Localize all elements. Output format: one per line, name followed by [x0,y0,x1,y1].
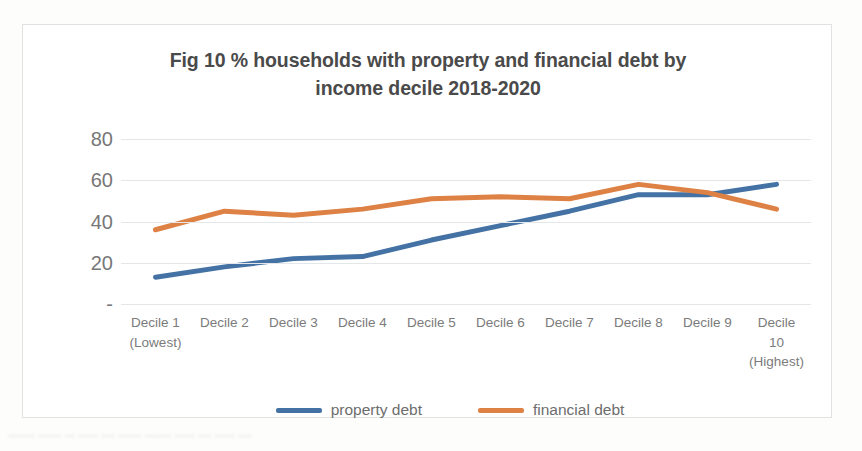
x-axis-tick-label: Decile10(Highest) [742,313,811,372]
x-axis-tick-line: Decile [758,315,796,330]
x-axis-tick-label: Decile 8 [604,313,673,333]
x-axis-tick-line: Decile 2 [200,315,249,330]
scan-artifact-text: ........ ....... ... ...... .... .......… [8,426,854,440]
y-axis-tick-label: 20 [91,253,113,273]
x-axis-tick-line: Decile 1 [131,315,180,330]
x-axis-tick-line: Decile 3 [269,315,318,330]
x-axis-tick-line: Decile 6 [476,315,525,330]
legend-swatch-icon [276,408,322,413]
y-axis: -20406080 [59,125,113,318]
gridline [121,304,811,305]
legend-item[interactable]: financial debt [478,401,624,419]
series-line-financial-debt [156,184,777,229]
x-axis-tick-label: Decile 5 [397,313,466,333]
x-axis-tick-line: (Highest) [749,354,804,369]
chart-legend: property debtfinancial debt [23,401,862,419]
y-axis-tick-label: 80 [91,129,113,149]
x-axis-tick-line: Decile 7 [545,315,594,330]
gridline [121,180,811,181]
x-axis-tick-label: Decile 9 [673,313,742,333]
gridline [121,139,811,140]
legend-label: property debt [331,401,422,419]
x-axis-tick-label: Decile 1(Lowest) [121,313,190,352]
chart-title: Fig 10 % households with property and fi… [83,47,773,102]
gridline [121,263,811,264]
x-axis-tick-line: Decile 5 [407,315,456,330]
x-axis-tick-label: Decile 2 [190,313,259,333]
x-axis-tick-line: (Lowest) [130,335,182,350]
x-axis-tick-line: 10 [769,335,784,350]
legend-swatch-icon [478,408,524,413]
y-axis-tick-label: - [106,294,113,314]
scanned-page: Fig 10 % households with property and fi… [0,0,862,451]
plot-area [121,139,811,304]
y-axis-tick-label: 60 [91,170,113,190]
x-axis: Decile 1(Lowest)Decile 2Decile 3Decile 4… [93,313,839,389]
legend-item[interactable]: property debt [276,401,422,419]
x-axis-tick-label: Decile 7 [535,313,604,333]
gridline [121,222,811,223]
chart-container: Fig 10 % households with property and fi… [22,24,832,418]
chart-title-line-2: income decile 2018-2020 [315,77,540,99]
x-axis-tick-label: Decile 3 [259,313,328,333]
chart-title-line-1: Fig 10 % households with property and fi… [170,49,687,71]
x-axis-tick-label: Decile 6 [466,313,535,333]
legend-label: financial debt [533,401,624,419]
x-axis-tick-label: Decile 4 [328,313,397,333]
y-axis-tick-label: 40 [91,212,113,232]
x-axis-tick-line: Decile 4 [338,315,387,330]
x-axis-tick-line: Decile 8 [614,315,663,330]
x-axis-tick-line: Decile 9 [683,315,732,330]
